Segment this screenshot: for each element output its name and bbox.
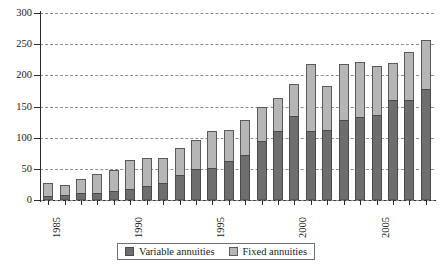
bar-1996 (224, 130, 234, 200)
bar-segment-fixed-1998 (257, 107, 267, 141)
y-tick-200 (34, 75, 41, 76)
x-tick-2007 (409, 200, 410, 205)
x-tick-1998 (262, 200, 263, 205)
bar-segment-variable-1989 (109, 191, 119, 200)
bar-1988 (92, 174, 102, 200)
bar-1999 (273, 98, 283, 200)
bar-segment-fixed-1986 (60, 185, 70, 195)
bar-segment-variable-1995 (207, 168, 217, 200)
y-tick-label-50: 50 (0, 164, 32, 174)
bar-segment-variable-2004 (355, 117, 365, 200)
x-tick-2006 (393, 200, 394, 205)
x-tick-2000 (294, 200, 295, 205)
plot-area (40, 13, 434, 200)
x-tick-1985 (48, 200, 49, 205)
x-tick-1988 (97, 200, 98, 205)
bar-1989 (109, 170, 119, 200)
legend-item-fixed-annuities: Fixed annuities (229, 246, 307, 257)
x-tick-1995 (212, 200, 213, 205)
bar-segment-fixed-2000 (289, 84, 299, 116)
bar-segment-fixed-1989 (109, 170, 119, 191)
x-tick-1993 (180, 200, 181, 205)
bar-1993 (175, 148, 185, 200)
y-tick-label-100: 100 (0, 133, 32, 143)
stacked-bar-chart: 050100150200250300 19851990199520002005 … (0, 0, 440, 272)
x-tick-2002 (327, 200, 328, 205)
bar-1995 (207, 131, 217, 200)
x-tick-1987 (81, 200, 82, 205)
bar-segment-fixed-2001 (306, 64, 316, 131)
bar-2003 (339, 64, 349, 201)
bar-segment-fixed-1990 (125, 160, 135, 189)
bar-segment-fixed-1995 (207, 131, 217, 168)
bar-segment-variable-2007 (404, 100, 414, 200)
y-tick-label-200: 200 (0, 70, 32, 80)
bar-segment-variable-1994 (191, 169, 201, 200)
bar-segment-variable-2002 (322, 130, 332, 200)
bar-series-group (40, 13, 434, 200)
x-tick-2008 (426, 200, 427, 205)
bar-segment-variable-1991 (142, 186, 152, 200)
x-tick-label-2000: 2000 (298, 217, 308, 238)
bar-segment-variable-2008 (421, 89, 431, 200)
bar-segment-fixed-1988 (92, 174, 102, 192)
y-tick-250 (34, 44, 41, 45)
bar-segment-variable-1990 (125, 189, 135, 200)
bar-2004 (355, 62, 365, 200)
x-tick-label-1985: 1985 (52, 217, 62, 238)
x-tick-1992 (163, 200, 164, 205)
x-tick-2005 (377, 200, 378, 205)
x-axis-tick-labels: 19851990199520002005 (0, 207, 440, 247)
bar-segment-variable-1993 (175, 175, 185, 200)
x-tick-1989 (114, 200, 115, 205)
bar-2001 (306, 64, 316, 200)
bar-segment-fixed-1996 (224, 130, 234, 161)
bar-segment-fixed-1992 (158, 158, 168, 183)
x-axis-ticks (0, 200, 440, 207)
bar-2008 (421, 40, 431, 200)
bar-segment-fixed-2008 (421, 40, 431, 89)
x-tick-label-1995: 1995 (216, 217, 226, 238)
bar-segment-fixed-2007 (404, 52, 414, 101)
bar-segment-variable-1988 (92, 193, 102, 200)
x-tick-label-1990: 1990 (134, 217, 144, 238)
bar-2000 (289, 84, 299, 200)
bar-2007 (404, 52, 414, 200)
x-tick-1990 (130, 200, 131, 205)
bar-segment-variable-1999 (273, 131, 283, 200)
legend-swatch-fixed-annuities (229, 247, 238, 256)
bar-2006 (388, 63, 398, 200)
y-tick-label-150: 150 (0, 102, 32, 112)
bar-segment-variable-2006 (388, 100, 398, 200)
bar-segment-fixed-2005 (372, 66, 382, 115)
x-tick-label-2005: 2005 (381, 217, 391, 238)
x-tick-2004 (360, 200, 361, 205)
bar-1998 (257, 107, 267, 200)
bar-segment-variable-2005 (372, 115, 382, 200)
bar-segment-variable-2003 (339, 120, 349, 200)
bar-segment-fixed-1997 (240, 120, 250, 156)
bar-segment-fixed-2003 (339, 64, 349, 121)
bar-segment-fixed-1999 (273, 98, 283, 131)
bar-segment-fixed-2002 (322, 86, 332, 130)
bar-segment-fixed-1987 (76, 179, 86, 193)
bar-segment-variable-1998 (257, 141, 267, 200)
y-tick-150 (34, 107, 41, 108)
bar-segment-variable-1987 (76, 193, 86, 200)
bar-1985 (43, 183, 53, 200)
y-tick-label-250: 250 (0, 39, 32, 49)
legend-label-variable-annuities: Variable annuities (139, 246, 215, 257)
bar-segment-fixed-1985 (43, 183, 53, 195)
bar-segment-variable-2001 (306, 131, 316, 200)
bar-segment-variable-2000 (289, 116, 299, 200)
bar-segment-variable-1997 (240, 155, 250, 200)
bar-1987 (76, 179, 86, 200)
x-tick-2003 (344, 200, 345, 205)
chart-legend: Variable annuities Fixed annuities (117, 243, 315, 260)
bar-1986 (60, 185, 70, 200)
bar-1992 (158, 158, 168, 200)
bar-segment-fixed-2004 (355, 62, 365, 117)
bar-1990 (125, 160, 135, 200)
y-tick-300 (34, 13, 41, 14)
x-tick-1986 (65, 200, 66, 205)
